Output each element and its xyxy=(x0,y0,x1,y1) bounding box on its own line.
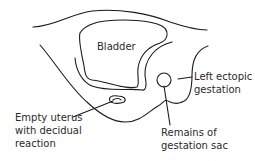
label-uterus-line2: with decidual xyxy=(15,125,82,136)
uterine-cavity xyxy=(109,96,125,104)
label-bladder: Bladder xyxy=(97,41,137,52)
leader-sac xyxy=(164,86,170,125)
uterine-cavity-inner xyxy=(113,99,121,101)
label-sac-line1: Remains of xyxy=(161,127,217,138)
label-sac-line2: gestation sac xyxy=(161,140,228,151)
bladder-outline xyxy=(79,20,167,88)
leader-ectopic xyxy=(178,77,192,79)
ectopic-pregnancy-diagram: Bladder Left ectopic gestation Empty ute… xyxy=(0,0,255,161)
ectopic-gestation-circle xyxy=(157,73,171,87)
label-uterus-line3: reaction xyxy=(15,138,56,149)
label-uterus-line1: Empty uterus xyxy=(15,112,83,123)
label-ectopic-line2: gestation xyxy=(194,84,241,95)
label-ectopic-line1: Left ectopic xyxy=(194,71,252,82)
